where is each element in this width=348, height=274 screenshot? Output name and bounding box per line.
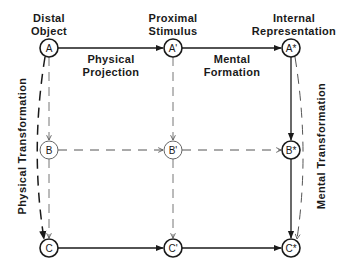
node-c-prime: C': [164, 239, 182, 257]
physical-transformation-label: Physical Transformation: [16, 71, 28, 221]
svg-text:A*: A*: [286, 43, 297, 54]
physical-projection-label: Physical Projection: [76, 53, 146, 79]
node-a-star: A*: [282, 39, 300, 57]
label-line: Formation: [200, 66, 264, 79]
svg-text:B: B: [46, 145, 53, 156]
mental-transformation-label: Mental Transformation: [315, 71, 327, 221]
node-a-prime: A': [164, 39, 182, 57]
svg-text:A: A: [46, 43, 53, 54]
node-b: B: [40, 141, 58, 159]
perception-diagram: A A' A* B B' B* C C': [0, 0, 348, 274]
label-line: Projection: [76, 66, 146, 79]
node-a: A: [40, 39, 58, 57]
svg-text:B': B': [169, 145, 178, 156]
header-line: Representation: [246, 25, 342, 38]
column-header-proximal: Proximal Stimulus: [138, 12, 208, 38]
diagram-graphics: A A' A* B B' B* C C': [0, 0, 348, 274]
header-line: Distal: [19, 12, 79, 25]
svg-text:B*: B*: [286, 145, 297, 156]
mental-formation-label: Mental Formation: [200, 53, 264, 79]
svg-text:A': A': [169, 43, 178, 54]
header-line: Proximal: [138, 12, 208, 25]
node-b-star: B*: [282, 141, 300, 159]
header-line: Stimulus: [138, 25, 208, 38]
column-header-distal: Distal Object: [19, 12, 79, 38]
label-line: Physical: [76, 53, 146, 66]
node-b-prime: B': [164, 141, 182, 159]
svg-text:C: C: [45, 243, 52, 254]
header-line: Object: [19, 25, 79, 38]
svg-text:C*: C*: [285, 243, 296, 254]
node-c: C: [40, 239, 58, 257]
svg-text:C': C': [168, 243, 177, 254]
header-line: Internal: [246, 12, 342, 25]
label-line: Mental: [200, 53, 264, 66]
node-c-star: C*: [282, 239, 300, 257]
column-header-internal: Internal Representation: [246, 12, 342, 38]
